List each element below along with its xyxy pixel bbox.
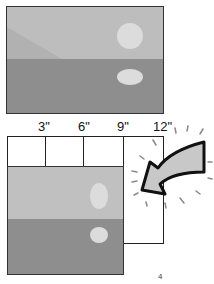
- ruler-label-3: 3": [38, 119, 50, 134]
- grid-cell-2: [45, 136, 84, 167]
- sun-reflection-icon: [117, 69, 143, 85]
- sun-reflection-icon: [90, 227, 108, 243]
- cropped-photo: [7, 166, 124, 275]
- arrow-icon: [120, 120, 214, 220]
- sun-icon: [90, 183, 108, 209]
- sea-region: [7, 59, 163, 113]
- corner-mark: 4: [158, 272, 162, 281]
- ruler-label-6: 6": [78, 119, 90, 134]
- grid-cell-1: [7, 136, 46, 167]
- sea-region: [8, 219, 123, 274]
- grid-cell-3: [83, 136, 124, 167]
- sun-icon: [117, 23, 143, 49]
- landscape-photo: [6, 6, 164, 114]
